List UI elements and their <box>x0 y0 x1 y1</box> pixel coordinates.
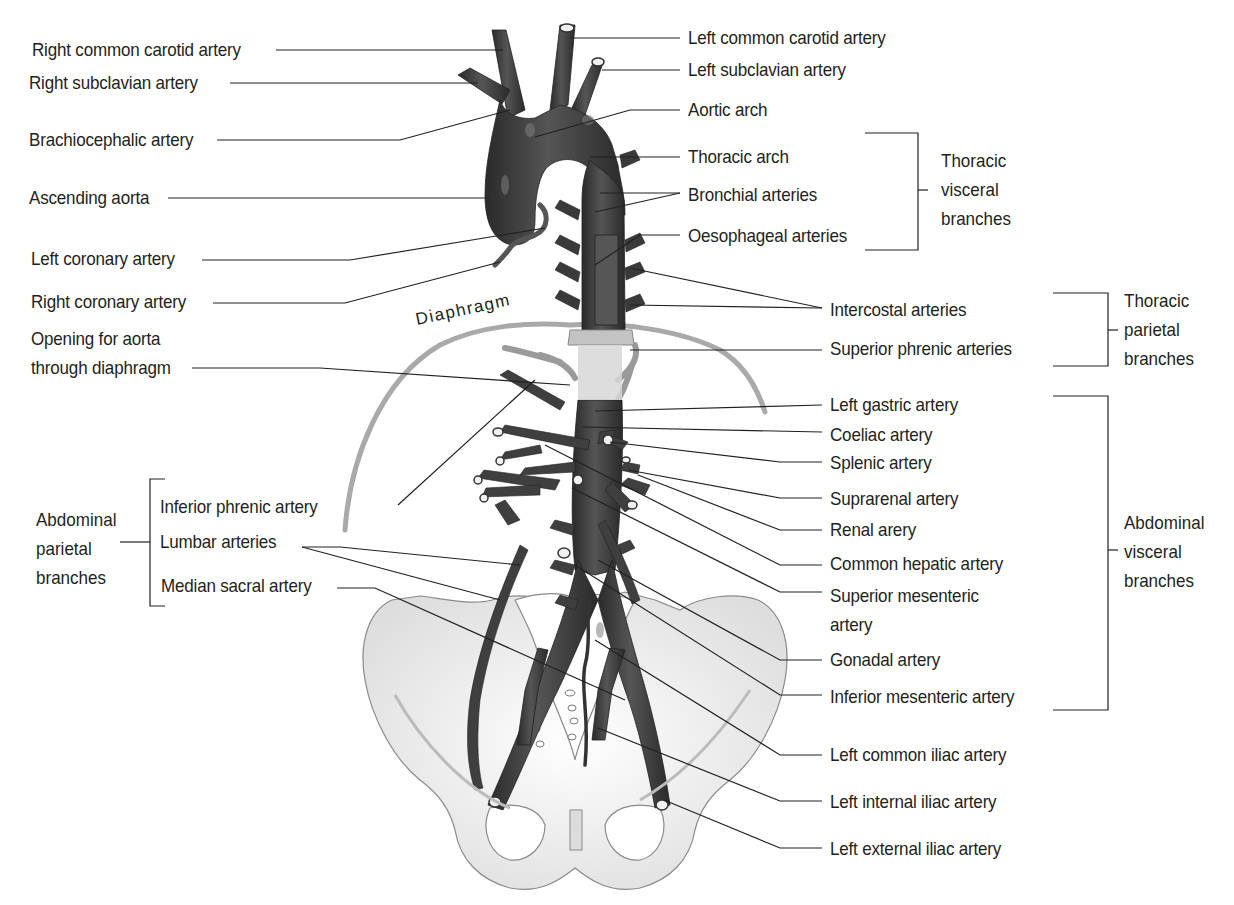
group-abdominal-visceral: Abdominal visceral branches <box>1124 508 1204 595</box>
label-right-coronary: Right coronary artery <box>31 291 186 313</box>
label-left-common-carotid: Left common carotid artery <box>688 27 886 49</box>
label-suprarenal: Suprarenal artery <box>830 488 958 510</box>
label-bronchial: Bronchial arteries <box>688 184 817 206</box>
group-abdominal-parietal-line2: parietal <box>36 534 116 563</box>
label-oesophageal: Oesophageal arteries <box>688 225 847 247</box>
label-intercostal: Intercostal arteries <box>830 299 966 321</box>
label-superior-phrenic: Superior phrenic arteries <box>830 338 1012 360</box>
label-inferior-phrenic: Inferior phrenic artery <box>160 496 318 518</box>
label-coeliac: Coeliac artery <box>830 424 932 446</box>
group-abdominal-parietal: Abdominal parietal branches <box>36 505 116 592</box>
label-left-gastric: Left gastric artery <box>830 394 958 416</box>
group-abdominal-visceral-line1: Abdominal <box>1124 508 1204 537</box>
label-right-subclavian: Right subclavian artery <box>29 72 198 94</box>
group-thoracic-visceral: Thoracic visceral branches <box>941 146 1011 233</box>
diaphragm <box>345 324 765 530</box>
group-thoracic-visceral-line3: branches <box>941 204 1011 233</box>
group-abdominal-visceral-line3: branches <box>1124 566 1204 595</box>
label-common-hepatic: Common hepatic artery <box>830 553 1003 575</box>
label-opening-aorta-line1: Opening for aorta <box>31 328 160 350</box>
label-left-internal-iliac: Left internal iliac artery <box>830 791 996 813</box>
group-thoracic-parietal-line1: Thoracic <box>1124 286 1194 315</box>
group-thoracic-parietal-line3: branches <box>1124 344 1194 373</box>
group-abdominal-parietal-line3: branches <box>36 563 116 592</box>
label-renal: Renal arery <box>830 519 916 541</box>
label-right-common-carotid: Right common carotid artery <box>32 39 241 61</box>
label-splenic: Splenic artery <box>830 452 931 474</box>
label-aortic-arch: Aortic arch <box>688 99 767 121</box>
label-left-common-iliac: Left common iliac artery <box>830 744 1006 766</box>
label-left-subclavian: Left subclavian artery <box>688 59 846 81</box>
group-abdominal-parietal-line1: Abdominal <box>36 505 116 534</box>
label-median-sacral: Median sacral artery <box>161 575 312 597</box>
label-left-coronary: Left coronary artery <box>31 248 175 270</box>
group-thoracic-visceral-line1: Thoracic <box>941 146 1011 175</box>
group-thoracic-parietal: Thoracic parietal branches <box>1124 286 1194 373</box>
label-lumbar: Lumbar arteries <box>160 531 276 553</box>
label-inferior-mesenteric: Inferior mesenteric artery <box>830 686 1014 708</box>
label-opening-aorta-line2: through diaphragm <box>31 357 171 379</box>
group-abdominal-visceral-line2: visceral <box>1124 537 1204 566</box>
label-thoracic-arch: Thoracic arch <box>688 146 789 168</box>
label-brachiocephalic: Brachiocephalic artery <box>29 129 193 151</box>
group-thoracic-parietal-line2: parietal <box>1124 315 1194 344</box>
label-ascending-aorta: Ascending aorta <box>29 187 149 209</box>
label-gonadal: Gonadal artery <box>830 649 940 671</box>
label-left-external-iliac: Left external iliac artery <box>830 838 1001 860</box>
label-superior-mesenteric-line1: Superior mesenteric <box>830 585 979 607</box>
group-thoracic-visceral-line2: visceral <box>941 175 1011 204</box>
label-superior-mesenteric-line2: artery <box>830 614 872 636</box>
